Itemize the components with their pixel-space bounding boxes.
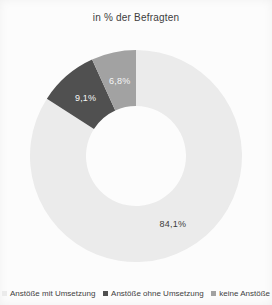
- legend-swatch-icon: [103, 291, 108, 296]
- donut-chart-figure: in % der Befragten 84,1%9,1%6,8% Anstöße…: [0, 0, 272, 305]
- legend-item-anstoesse-ohne-umsetzung: Anstöße ohne Umsetzung: [103, 289, 204, 298]
- slice-value-label-2: 6,8%: [109, 76, 130, 86]
- legend-swatch-icon: [211, 291, 216, 296]
- legend-label: keine Anstöße: [219, 289, 270, 298]
- legend-label: Anstöße ohne Umsetzung: [111, 289, 204, 298]
- chart-legend: Anstöße mit Umsetzung Anstöße ohne Umset…: [0, 289, 272, 298]
- legend-label: Anstöße mit Umsetzung: [10, 289, 95, 298]
- legend-item-keine-anstoesse: keine Anstöße: [211, 289, 270, 298]
- slice-value-label-1: 9,1%: [75, 93, 96, 103]
- legend-item-anstoesse-mit-umsetzung: Anstöße mit Umsetzung: [2, 289, 95, 298]
- donut-chart: 84,1%9,1%6,8%: [0, 0, 272, 305]
- legend-swatch-icon: [2, 291, 7, 296]
- slice-value-label-0: 84,1%: [160, 219, 187, 229]
